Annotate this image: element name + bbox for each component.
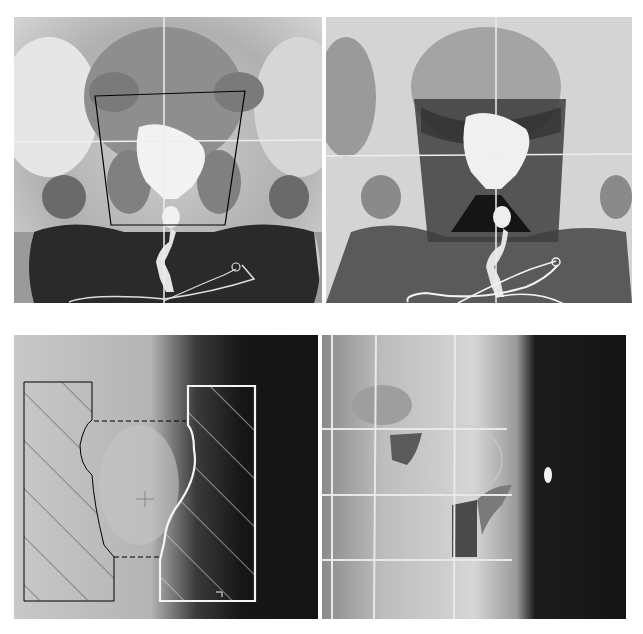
radiograph-ap-outline [14,17,322,303]
radiograph-ap-shaded-image [326,17,632,303]
radiograph-lateral-blocks-image [14,335,318,619]
radiograph-lateral-grid-image [322,335,626,619]
radiograph-ap-shaded [326,17,632,303]
radiograph-lateral-blocks [14,335,318,619]
radiograph-ap-outline-image [14,17,322,303]
radiograph-lateral-grid [322,335,626,619]
